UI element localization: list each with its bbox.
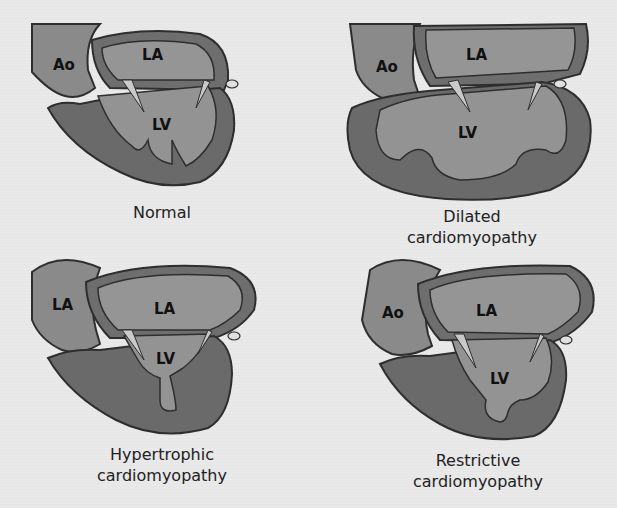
label-lv: LV — [490, 370, 509, 388]
label-lv: LV — [458, 124, 477, 142]
heart-dilated-illustration — [310, 0, 617, 205]
label-la: LA — [142, 46, 163, 64]
label-la-left: LA — [52, 296, 73, 314]
heart-normal-illustration — [0, 0, 300, 200]
caption-hypertrophic: Hypertrophic cardiomyopathy — [52, 444, 272, 486]
label-lv: LV — [156, 350, 175, 368]
panel-restrictive: Ao LA LV Restrictive cardiomyopathy — [310, 250, 617, 508]
caption-dilated: Dilated cardiomyopathy — [362, 206, 582, 248]
caption-restrictive: Restrictive cardiomyopathy — [368, 450, 588, 492]
label-ao: Ao — [53, 56, 75, 74]
caption-normal: Normal — [52, 202, 272, 223]
heart-hypertrophic-illustration — [0, 250, 300, 450]
label-la: LA — [154, 300, 175, 318]
panel-hypertrophic: LA LA LV Hypertrophic cardiomyopathy — [0, 250, 300, 508]
heart-restrictive-illustration — [310, 250, 617, 450]
panel-normal: Ao LA LV Normal — [0, 0, 300, 250]
label-la: LA — [476, 302, 497, 320]
panel-dilated: Ao LA LV Dilated cardiomyopathy — [310, 0, 617, 250]
label-ao: Ao — [376, 58, 398, 76]
label-lv: LV — [152, 116, 171, 134]
label-la: LA — [466, 46, 487, 64]
label-ao: Ao — [382, 304, 404, 322]
